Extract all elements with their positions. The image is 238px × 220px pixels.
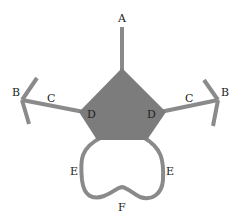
label-b-right: B [221, 86, 229, 99]
structure-diagram: A B B C C D D E E F [0, 0, 238, 220]
label-e-left: E [70, 165, 78, 178]
label-c-right: C [185, 92, 193, 105]
branch-b-right-upper [204, 80, 218, 100]
central-body [79, 68, 166, 140]
label-a: A [117, 12, 127, 25]
label-d-left: D [87, 108, 96, 121]
label-d-right: D [147, 108, 156, 121]
branch-b-left-lower [22, 100, 29, 124]
branch-b-left-upper [22, 78, 37, 100]
loop-e-f [81, 137, 163, 198]
label-f: F [118, 201, 126, 214]
label-b-left: B [12, 86, 20, 99]
diagram-canvas: A B B C C D D E E F [0, 0, 238, 220]
label-c-left: C [47, 92, 55, 105]
label-e-right: E [166, 165, 174, 178]
branch-b-right-lower [213, 100, 218, 126]
